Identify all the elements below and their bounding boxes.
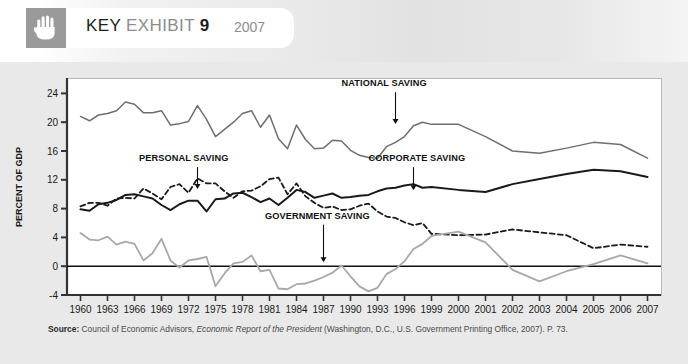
x-tick-label: 1966 <box>123 304 146 315</box>
x-tick-label: 1969 <box>150 304 173 315</box>
source-note: Source: Council of Economic Advisors, Ec… <box>48 324 658 335</box>
series-line-government <box>81 232 648 292</box>
annotation-arrow-personal <box>195 167 201 189</box>
exhibit-header-band: KEY EXHIBIT 9 2007 <box>0 0 688 62</box>
source-publication-title: Economic Report of the President <box>197 324 322 334</box>
x-tick-label: 1975 <box>204 304 227 315</box>
annotation-arrow-government <box>321 225 327 263</box>
title-key-word: KEY <box>86 16 121 35</box>
y-tick-label: 12 <box>47 174 59 185</box>
x-tick-label: 1963 <box>96 304 119 315</box>
source-text-after: (Washington, D.C., U.S. Government Print… <box>322 324 568 334</box>
x-tick-label: 1990 <box>339 304 362 315</box>
title-exhibit-word: EXHIBIT <box>126 16 195 35</box>
x-tick-label: 2000 <box>447 304 470 315</box>
y-axis-title: PERCENT OF GDP <box>14 147 24 227</box>
x-tick-label: 1996 <box>393 304 416 315</box>
x-axis: 1960196319661969197219751978198119841987… <box>66 295 661 315</box>
page-title: KEY EXHIBIT 9 <box>86 16 210 36</box>
x-tick-label: 2007 <box>636 304 659 315</box>
y-axis-title-text: PERCENT OF GDP <box>14 147 24 227</box>
x-tick-label: 1960 <box>69 304 92 315</box>
y-tick-label: -4 <box>49 290 58 301</box>
source-text-before: Council of Economic Advisors, <box>79 324 196 334</box>
x-tick-label: 2001 <box>474 304 497 315</box>
x-tick-label: 1978 <box>231 304 254 315</box>
annotation-arrow-corporate <box>411 167 417 190</box>
source-label: Source: <box>48 324 79 334</box>
x-tick-label: 2005 <box>582 304 605 315</box>
figure-container: -404812162024 19601963196619691972197519… <box>0 62 688 364</box>
data-series-group <box>81 102 648 291</box>
x-tick-label: 2002 <box>501 304 524 315</box>
y-axis: -404812162024 <box>47 78 67 301</box>
annotation-arrow-national <box>393 92 399 124</box>
series-line-corporate <box>81 170 648 212</box>
y-tick-label: 0 <box>52 261 58 272</box>
series-line-national <box>81 102 648 158</box>
saving-rates-line-chart: -404812162024 19601963196619691972197519… <box>0 62 688 364</box>
annotation-label-government: GOVERNMENT SAVING <box>265 211 370 221</box>
y-tick-label: 24 <box>47 88 59 99</box>
x-tick-label: 2006 <box>609 304 632 315</box>
annotation-label-national: NATIONAL SAVING <box>342 78 427 88</box>
title-exhibit-number: 9 <box>200 16 210 35</box>
y-tick-label: 4 <box>52 232 58 243</box>
x-tick-label: 2004 <box>555 304 578 315</box>
x-tick-label: 2003 <box>528 304 551 315</box>
series-annotations: NATIONAL SAVINGPERSONAL SAVINGCORPORATE … <box>139 78 465 262</box>
x-tick-label: 1999 <box>420 304 443 315</box>
x-tick-label: 1984 <box>285 304 308 315</box>
hand-icon <box>26 8 66 48</box>
x-tick-label: 1993 <box>366 304 389 315</box>
y-tick-label: 16 <box>47 146 59 157</box>
annotation-label-personal: PERSONAL SAVING <box>139 153 228 163</box>
y-tick-label: 8 <box>52 203 58 214</box>
exhibit-year: 2007 <box>234 19 265 35</box>
x-tick-label: 1981 <box>258 304 281 315</box>
annotation-label-corporate: CORPORATE SAVING <box>369 153 466 163</box>
x-tick-label: 1987 <box>312 304 335 315</box>
x-tick-label: 1972 <box>177 304 200 315</box>
y-tick-label: 20 <box>47 117 59 128</box>
